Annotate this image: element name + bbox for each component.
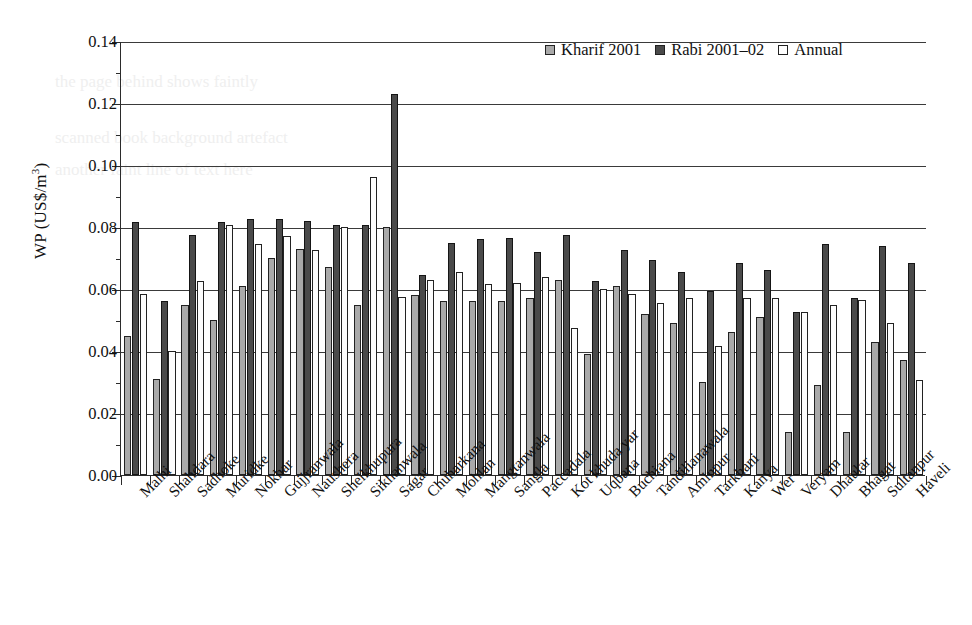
bar-rabi xyxy=(391,94,398,475)
bar-group xyxy=(383,41,406,475)
bar-kharif xyxy=(756,317,763,475)
bar-group xyxy=(469,41,492,475)
bar-group xyxy=(210,41,233,475)
bar-group xyxy=(440,41,463,475)
bar-annual xyxy=(600,289,607,475)
bar-group xyxy=(526,41,549,475)
bar-annual xyxy=(858,300,865,475)
bar-rabi xyxy=(132,222,139,475)
bar-group xyxy=(239,41,262,475)
bar-annual xyxy=(197,281,204,475)
bar-annual xyxy=(772,298,779,475)
y-axis-tick-label: 0.08 xyxy=(57,220,117,237)
y-axis-tick-label: 0.10 xyxy=(57,158,117,175)
bar-group xyxy=(124,41,147,475)
bar-annual xyxy=(341,227,348,475)
bar-annual xyxy=(226,225,233,475)
bar-group xyxy=(296,41,319,475)
bar-group xyxy=(641,41,664,475)
bar-group xyxy=(411,41,434,475)
bar-group xyxy=(153,41,176,475)
bar-rabi xyxy=(563,235,570,475)
bar-group xyxy=(181,41,204,475)
y-axis-title-text: WP (US$/m xyxy=(31,174,50,259)
bar-kharif xyxy=(871,342,878,475)
bar-kharif xyxy=(555,280,562,475)
bar-rabi xyxy=(649,260,656,475)
bar-annual xyxy=(255,244,262,475)
bar-rabi xyxy=(879,246,886,475)
bar-annual xyxy=(513,283,520,475)
bar-group xyxy=(728,41,751,475)
bar-annual xyxy=(427,280,434,475)
bar-group xyxy=(900,41,923,475)
bar-rabi xyxy=(189,235,196,475)
bar-kharif xyxy=(124,336,131,476)
bar-group xyxy=(699,41,722,475)
bar-rabi xyxy=(247,219,254,475)
bar-rabi xyxy=(592,281,599,475)
bar-rabi xyxy=(161,301,168,475)
bar-group xyxy=(354,41,377,475)
bar-group xyxy=(756,41,779,475)
bar-annual xyxy=(140,294,147,475)
bar-rabi xyxy=(678,272,685,475)
bar-series-container xyxy=(121,41,926,475)
bar-kharif xyxy=(900,360,907,475)
bar-chart-figure: the page behind shows faintly scanned bo… xyxy=(0,0,972,625)
bar-group xyxy=(584,41,607,475)
bar-rabi xyxy=(908,263,915,475)
bar-group xyxy=(785,41,808,475)
bar-kharif xyxy=(354,305,361,476)
y-axis-title-exponent: 3 xyxy=(29,169,41,175)
bar-annual xyxy=(283,236,290,475)
bar-annual xyxy=(370,177,377,475)
bar-rabi xyxy=(736,263,743,475)
bar-group xyxy=(325,41,348,475)
bar-kharif xyxy=(498,301,505,475)
bar-kharif xyxy=(268,258,275,475)
bar-kharif xyxy=(239,286,246,475)
bar-rabi xyxy=(851,298,858,475)
bar-annual xyxy=(830,305,837,476)
bar-group xyxy=(498,41,521,475)
y-axis-tick-label: 0.14 xyxy=(57,34,117,51)
y-axis-tick-label: 0.02 xyxy=(57,406,117,423)
bar-rabi xyxy=(304,221,311,475)
y-axis-tick-label: 0.04 xyxy=(57,344,117,361)
bar-kharif xyxy=(814,385,821,475)
plot-area: 0.140.120.100.080.060.040.020.00 MalhiSh… xyxy=(120,42,925,476)
bar-kharif xyxy=(440,301,447,475)
bar-rabi xyxy=(793,312,800,475)
bar-rabi xyxy=(362,225,369,475)
bar-annual xyxy=(456,272,463,475)
y-axis-title-close: ) xyxy=(31,163,50,169)
bar-group xyxy=(268,41,291,475)
bar-rabi xyxy=(822,244,829,475)
bar-group xyxy=(871,41,894,475)
bar-rabi xyxy=(218,222,225,475)
bar-kharif xyxy=(785,432,792,475)
bar-rabi xyxy=(276,219,283,475)
y-axis-tick-label: 0.06 xyxy=(57,282,117,299)
bar-kharif xyxy=(181,305,188,476)
bar-group xyxy=(843,41,866,475)
bar-group xyxy=(814,41,837,475)
bar-rabi xyxy=(448,243,455,476)
bar-rabi xyxy=(764,270,771,475)
y-axis-tick-label: 0.12 xyxy=(57,96,117,113)
bar-annual xyxy=(168,351,175,475)
x-axis-tick xyxy=(121,476,122,485)
bar-annual xyxy=(312,250,319,475)
bar-group xyxy=(670,41,693,475)
bar-annual xyxy=(887,323,894,475)
bar-rabi xyxy=(506,238,513,475)
y-axis-title: WP (US$/m3) xyxy=(29,91,51,331)
bar-group xyxy=(555,41,578,475)
y-axis-tick-label: 0.00 xyxy=(57,468,117,485)
bar-kharif xyxy=(296,249,303,475)
bar-annual xyxy=(801,312,808,475)
bar-kharif xyxy=(153,379,160,475)
bar-kharif xyxy=(728,332,735,475)
bar-group xyxy=(613,41,636,475)
